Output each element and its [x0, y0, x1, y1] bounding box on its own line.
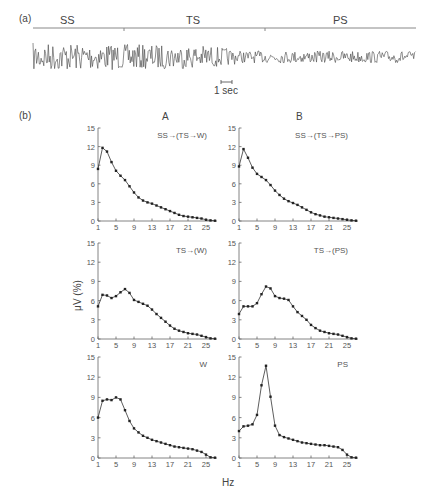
data-line [239, 149, 356, 221]
data-line [98, 148, 215, 221]
data-point [337, 217, 339, 219]
y-tick-label: 3 [91, 434, 95, 443]
x-tick-label: 13 [289, 460, 297, 469]
data-point [238, 165, 240, 167]
x-tick-label: 1 [237, 223, 241, 232]
data-point [124, 179, 126, 181]
x-tick-label: 17 [166, 341, 174, 350]
x-tick-label: 9 [273, 460, 277, 469]
data-point [146, 305, 148, 307]
data-point [169, 324, 171, 326]
data-point [214, 219, 216, 221]
data-point [146, 201, 148, 203]
data-point [328, 332, 330, 334]
data-point [238, 313, 240, 315]
data-point [283, 436, 285, 438]
y-tick-label: 6 [91, 180, 95, 189]
y-tick-label: 9 [91, 277, 95, 286]
data-point [97, 305, 99, 307]
data-point [196, 333, 198, 335]
data-point [101, 294, 103, 296]
x-tick-label: 21 [325, 341, 333, 350]
data-point [319, 214, 321, 216]
data-point [301, 206, 303, 208]
data-point [209, 219, 211, 221]
data-point [209, 337, 211, 339]
chart-title: TS→(W) [176, 246, 207, 255]
data-point [115, 396, 117, 398]
data-point [173, 445, 175, 447]
data-point [323, 331, 325, 333]
y-tick-label: 3 [232, 198, 236, 207]
data-point [278, 194, 280, 196]
x-tick-label: 5 [255, 460, 259, 469]
y-tick-label: 0 [232, 217, 236, 226]
y-tick-label: 15 [228, 124, 236, 133]
y-tick-label: 6 [232, 297, 236, 306]
x-tick-label: 17 [307, 223, 315, 232]
data-point [247, 157, 249, 159]
x-tick-label: 9 [273, 223, 277, 232]
data-point [110, 161, 112, 163]
data-point [124, 409, 126, 411]
data-point [133, 191, 135, 193]
data-point [350, 219, 352, 221]
y-tick-label: 15 [87, 239, 95, 248]
data-point [332, 445, 334, 447]
y-tick-label: 6 [91, 414, 95, 423]
data-point [200, 217, 202, 219]
data-point [328, 445, 330, 447]
data-point [319, 444, 321, 446]
data-point [265, 179, 267, 181]
data-point [178, 329, 180, 331]
data-point [155, 313, 157, 315]
data-point [160, 317, 162, 319]
data-point [151, 439, 153, 441]
data-point [164, 443, 166, 445]
y-tick-label: 9 [232, 277, 236, 286]
y-tick-label: 0 [232, 454, 236, 463]
data-point [196, 449, 198, 451]
data-point [265, 365, 267, 367]
chart-title: W [199, 360, 207, 369]
data-point [256, 414, 258, 416]
x-tick-label: 5 [114, 460, 118, 469]
data-point [242, 148, 244, 150]
x-tick-label: 21 [325, 460, 333, 469]
data-point [200, 451, 202, 453]
y-tick-label: 15 [228, 353, 236, 362]
data-point [187, 447, 189, 449]
chart-title: TS→(PS) [314, 246, 349, 255]
x-tick-label: 5 [255, 223, 259, 232]
data-point [296, 440, 298, 442]
data-point [187, 332, 189, 334]
data-point [128, 292, 130, 294]
data-point [97, 168, 99, 170]
x-tick-label: 17 [307, 460, 315, 469]
x-tick-label: 1 [96, 460, 100, 469]
data-point [337, 333, 339, 335]
chart-a-row2: 0369121515913172125TS→(W) [87, 239, 217, 350]
data-point [350, 456, 352, 458]
data-point [128, 420, 130, 422]
data-point [346, 336, 348, 338]
data-point [341, 335, 343, 337]
data-point [214, 337, 216, 339]
data-point [178, 214, 180, 216]
chart-b-row2: 0369121515913172125TS→(PS) [228, 239, 358, 350]
data-point [328, 216, 330, 218]
x-tick-label: 17 [307, 341, 315, 350]
data-point [242, 425, 244, 427]
data-point [323, 215, 325, 217]
data-point [287, 299, 289, 301]
data-point [251, 305, 253, 307]
chart-title: PS [337, 360, 348, 369]
data-point [305, 209, 307, 211]
data-point [187, 215, 189, 217]
x-tick-label: 13 [289, 223, 297, 232]
x-tick-label: 13 [148, 341, 156, 350]
data-point [169, 210, 171, 212]
data-point [101, 400, 103, 402]
x-tick-label: 25 [202, 460, 210, 469]
data-point [278, 434, 280, 436]
